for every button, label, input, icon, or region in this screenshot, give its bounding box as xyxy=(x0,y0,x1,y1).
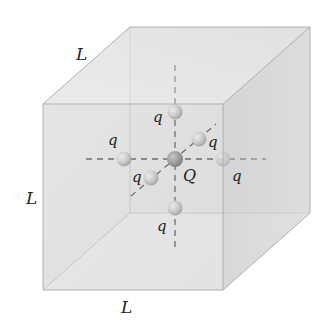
edge-label-left: L xyxy=(25,188,37,208)
edge-label-top: L xyxy=(75,44,87,64)
diagram-canvas: L L L Q q q q q q q xyxy=(0,0,327,329)
cube-front-face xyxy=(43,104,223,290)
edge-label-bottom: L xyxy=(120,297,132,317)
cube-diagram: L L L Q q q q q q q xyxy=(0,0,327,329)
charge-label-bottom: q xyxy=(157,217,167,235)
charge-label-right: q xyxy=(232,167,242,185)
charge-label-top: q xyxy=(153,108,163,126)
charge-label-left: q xyxy=(108,131,118,149)
charge-label-front: q xyxy=(132,168,142,186)
charge-label-back: q xyxy=(208,133,218,151)
center-charge-label: Q xyxy=(183,166,196,185)
